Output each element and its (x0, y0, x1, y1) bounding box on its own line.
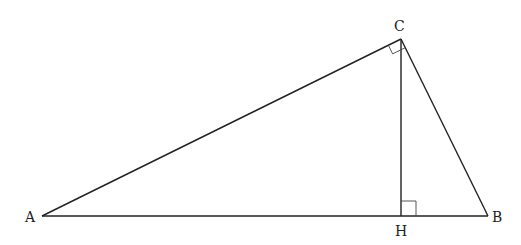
triangle-diagram: A B C H (0, 0, 521, 245)
right-angle-mark-c (388, 45, 405, 54)
segment-ac (42, 39, 401, 216)
label-h: H (395, 223, 407, 239)
label-b: B (492, 209, 502, 225)
right-angle-mark-h (401, 201, 416, 216)
label-c: C (394, 18, 405, 34)
diagram-svg: A B C H (0, 0, 521, 245)
segment-bc (401, 39, 488, 216)
label-a: A (24, 209, 36, 225)
